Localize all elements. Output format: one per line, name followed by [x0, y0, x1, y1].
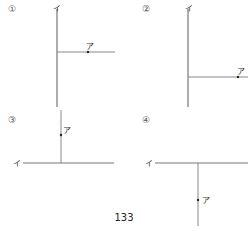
figure-3-point-label: ア — [63, 126, 71, 135]
figure-1-line-label: イ — [53, 4, 61, 13]
figure-1-point-a — [87, 51, 89, 53]
figure-2-line-label: イ — [185, 4, 193, 13]
figure-4-point-a — [197, 199, 199, 201]
figure-1: ① ア イ — [8, 4, 115, 107]
figure-4: ④ ア イ — [142, 115, 248, 226]
figure-1-number: ① — [8, 4, 16, 14]
page-number: 133 — [114, 212, 133, 223]
figure-3: ③ ア イ — [8, 110, 114, 168]
diagram-canvas: ① ア イ ② ア イ ③ ア イ ④ ア イ 133 — [0, 0, 249, 231]
figure-2: ② ア イ — [142, 4, 248, 107]
figure-3-line-label: イ — [13, 159, 21, 168]
figure-2-point-a — [237, 76, 239, 78]
figure-3-point-a — [60, 134, 62, 136]
figure-2-number: ② — [142, 4, 150, 14]
figure-1-point-label: ア — [86, 42, 94, 51]
figure-4-line-label: イ — [145, 159, 153, 168]
figure-2-point-label: ア — [237, 67, 245, 76]
figure-4-point-label: ア — [202, 196, 210, 205]
figure-4-number: ④ — [142, 115, 150, 125]
figure-3-number: ③ — [8, 115, 16, 125]
